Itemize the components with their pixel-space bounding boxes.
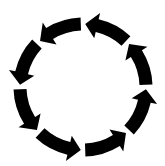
cycle-arrow-ring (9, 13, 157, 161)
curved-arrow-icon (9, 40, 42, 85)
curved-arrow-icon (125, 44, 152, 85)
curved-arrow-icon (40, 18, 81, 45)
curved-arrow-icon (124, 89, 157, 134)
curved-arrow-icon (36, 128, 81, 161)
cycle-diagram (0, 0, 165, 166)
curved-arrow-icon (85, 13, 130, 46)
curved-arrow-icon (85, 129, 126, 156)
curved-arrow-icon (14, 89, 41, 130)
